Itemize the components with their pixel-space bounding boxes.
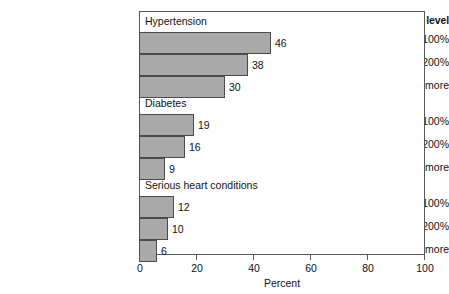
group-caption-serious-heart-conditions: Serious heart conditions (145, 179, 258, 191)
bar-value-hypertension-100-to-200: 38 (252, 54, 264, 76)
group-caption-hypertension: Hypertension (145, 15, 207, 27)
tick-label-60: 60 (305, 262, 317, 274)
tick-mark-100 (424, 255, 425, 260)
tick-label-80: 80 (362, 262, 374, 274)
bar-value-heart-200-or-more: 6 (161, 240, 167, 262)
bar-diabetes-100-to-200 (139, 136, 185, 158)
bar-heart-100-to-200 (139, 218, 168, 240)
tick-label-100: 100 (416, 262, 434, 274)
tick-mark-0 (139, 255, 140, 260)
bar-diabetes-200-or-more (139, 158, 165, 180)
tick-mark-60 (310, 255, 311, 260)
tick-mark-80 (367, 255, 368, 260)
bar-value-hypertension-below-100: 46 (275, 32, 287, 54)
bar-diabetes-below-100 (139, 114, 194, 136)
bar-value-diabetes-200-or-more: 9 (169, 158, 175, 180)
tick-label-20: 20 (191, 262, 203, 274)
group-caption-diabetes: Diabetes (145, 97, 186, 109)
bar-hypertension-below-100 (139, 32, 271, 54)
tick-mark-20 (196, 255, 197, 260)
bar-value-hypertension-200-or-more: 30 (229, 76, 241, 98)
bar-hypertension-200-or-more (139, 76, 225, 98)
bar-value-diabetes-100-to-200: 16 (189, 136, 201, 158)
bar-value-heart-below-100: 12 (178, 196, 190, 218)
plot-area: Hypertension 46 38 30 Diabetes 19 16 9 S… (139, 11, 425, 255)
tick-mark-40 (253, 255, 254, 260)
tick-label-0: 0 (137, 262, 143, 274)
chart-figure: Percent of poverty level Below 100% 100%… (0, 0, 449, 294)
tick-label-40: 40 (248, 262, 260, 274)
bar-value-heart-100-to-200: 10 (172, 218, 184, 240)
x-axis-title: Percent (264, 277, 300, 289)
bar-heart-200-or-more (139, 240, 157, 262)
bar-hypertension-100-to-200 (139, 54, 248, 76)
bar-value-diabetes-below-100: 19 (198, 114, 210, 136)
bar-heart-below-100 (139, 196, 174, 218)
